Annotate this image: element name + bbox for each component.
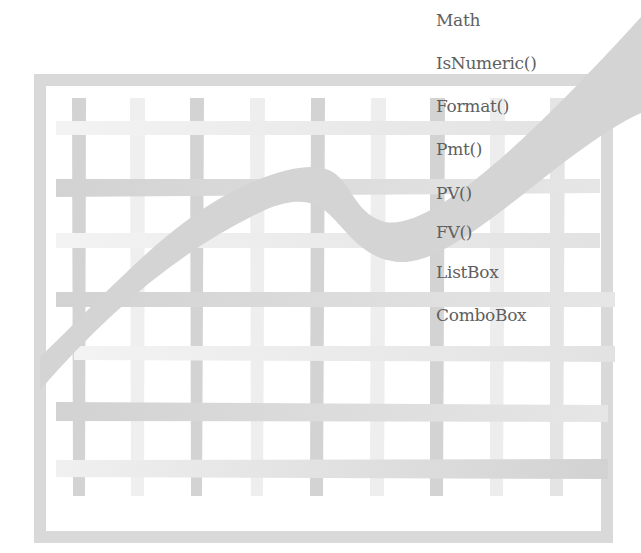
menu-item-pmt[interactable]: Pmt() (436, 139, 482, 159)
menu-item-fv[interactable]: FV() (436, 222, 472, 242)
menu-item-format[interactable]: Format() (436, 96, 509, 116)
menu-item-math[interactable]: Math (436, 10, 480, 30)
menu-item-combobox[interactable]: ComboBox (436, 305, 526, 325)
menu-item-listbox[interactable]: ListBox (436, 262, 499, 282)
menu-item-pv[interactable]: PV() (436, 183, 472, 203)
menu-item-isnumeric[interactable]: IsNumeric() (436, 53, 537, 73)
chart-illustration (0, 0, 641, 553)
